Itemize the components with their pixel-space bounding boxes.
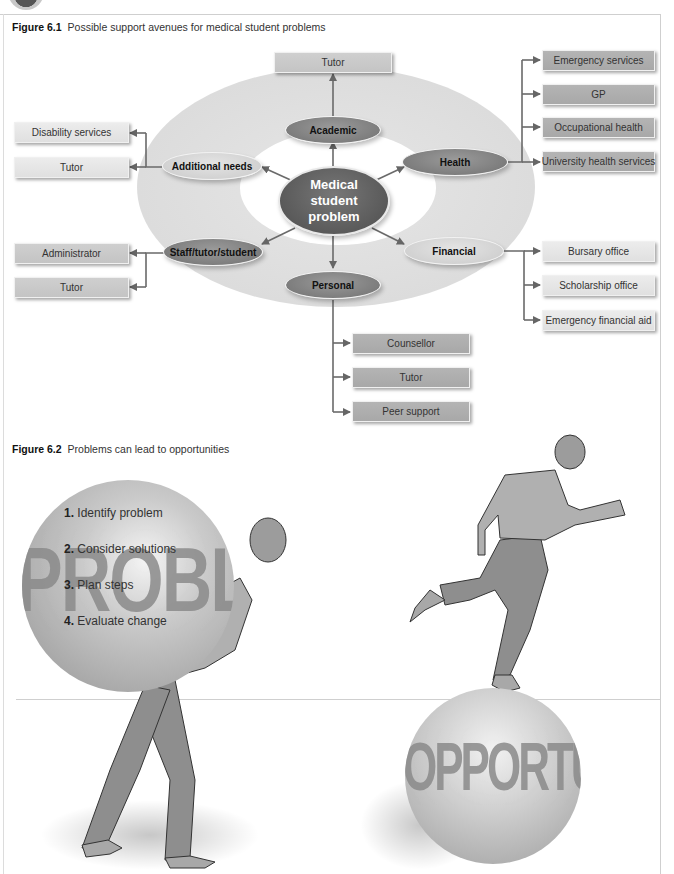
step-item: 3. Plan steps bbox=[64, 578, 133, 592]
node-label: Personal bbox=[312, 280, 354, 291]
node-staff-tutor-student: Staff/tutor/student bbox=[163, 238, 263, 266]
dest-disability-services: Disability services bbox=[14, 122, 129, 143]
dest-emergency-services: Emergency services bbox=[542, 50, 655, 71]
dest-academic-tutor: Tutor bbox=[274, 52, 392, 73]
dest-emergency-financial-aid: Emergency financial aid bbox=[542, 310, 655, 331]
problems-opportunities-illustration: PROBLEM 1. Identify problem 2. Consider … bbox=[0, 430, 674, 874]
dest-scholarship-office: Scholarship office bbox=[542, 275, 655, 296]
dest-additional-tutor: Tutor bbox=[14, 157, 129, 178]
node-label: Academic bbox=[309, 125, 356, 136]
node-academic: Academic bbox=[285, 116, 381, 144]
dest-occupational-health: Occupational health bbox=[542, 117, 655, 138]
dest-gp: GP bbox=[542, 84, 655, 105]
step-text: Identify problem bbox=[77, 506, 162, 520]
step-item: 2. Consider solutions bbox=[64, 542, 176, 556]
opportunity-word: OPPORTUNITY bbox=[405, 728, 581, 806]
node-label: Staff/tutor/student bbox=[170, 247, 257, 258]
dest-bursary-office: Bursary office bbox=[542, 241, 655, 262]
step-number: 1. bbox=[64, 506, 74, 520]
node-center-problem: Medical student problem bbox=[278, 166, 390, 236]
node-label: Additional needs bbox=[172, 161, 253, 172]
dest-personal-tutor: Tutor bbox=[352, 367, 470, 388]
step-number: 2. bbox=[64, 542, 74, 556]
step-item: 1. Identify problem bbox=[64, 506, 163, 520]
node-label: Financial bbox=[432, 246, 475, 257]
node-label: Health bbox=[440, 157, 471, 168]
dest-peer-support: Peer support bbox=[352, 401, 470, 422]
dest-university-health-services: University health services bbox=[542, 151, 655, 172]
step-text: Evaluate change bbox=[77, 614, 166, 628]
node-additional-needs: Additional needs bbox=[162, 152, 262, 180]
step-number: 4. bbox=[64, 614, 74, 628]
step-text: Plan steps bbox=[77, 578, 133, 592]
dest-counsellor: Counsellor bbox=[352, 333, 470, 354]
dest-administrator: Administrator bbox=[14, 243, 129, 264]
opportunity-ball: OPPORTUNITY bbox=[405, 688, 581, 864]
node-personal: Personal bbox=[285, 271, 381, 299]
dest-staff-tutor: Tutor bbox=[14, 277, 129, 298]
node-health: Health bbox=[402, 148, 508, 176]
support-avenues-diagram: Academic Health Financial Personal Staff… bbox=[0, 0, 674, 430]
center-label: Medical student problem bbox=[289, 177, 379, 225]
node-financial: Financial bbox=[404, 237, 504, 265]
step-item: 4. Evaluate change bbox=[64, 614, 167, 628]
step-number: 3. bbox=[64, 578, 74, 592]
step-text: Consider solutions bbox=[77, 542, 176, 556]
